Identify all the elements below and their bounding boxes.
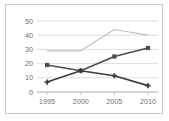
x-axis-tick-label: 2010 [140, 97, 156, 106]
line-chart: 010203040501995200020052010 [6, 5, 164, 115]
chart-plot-area: 010203040501995200020052010 [6, 5, 164, 115]
data-point-marker-square [45, 63, 49, 67]
data-point-marker-square [112, 54, 116, 58]
y-axis-tick-label: 20 [25, 59, 33, 68]
data-point-marker-cross [44, 79, 49, 84]
y-axis-tick-label: 50 [25, 17, 33, 26]
x-axis-tick-label: 1995 [39, 97, 55, 106]
x-axis-tick-label: 2000 [73, 97, 89, 106]
x-axis-tick-label: 2005 [106, 97, 122, 106]
series-line-series-light-gray [47, 30, 148, 51]
chart-frame: 010203040501995200020052010 [5, 4, 163, 114]
data-point-marker-square [146, 46, 150, 50]
data-point-marker-cross [145, 83, 150, 88]
y-axis-tick-label: 30 [25, 45, 33, 54]
y-axis-tick-label: 40 [25, 31, 33, 40]
y-axis-tick-label: 0 [29, 88, 33, 97]
y-axis-tick-label: 10 [25, 73, 33, 82]
